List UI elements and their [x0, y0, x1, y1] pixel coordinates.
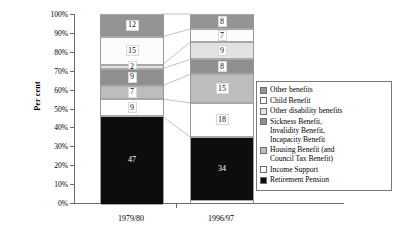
bar-segment[interactable]: 9	[191, 42, 253, 59]
y-axis-tick-label: 30%	[30, 142, 68, 151]
y-axis-tick-label: 10%	[30, 180, 68, 189]
legend-item[interactable]: Housing Benefit (and Council Tax Benefit…	[260, 145, 388, 163]
bar-segment-value: 9	[218, 45, 227, 56]
bar-segment[interactable]: 47	[101, 116, 163, 205]
y-axis-tick-label: 50%	[30, 104, 68, 113]
legend-swatch-icon	[260, 87, 267, 94]
y-axis-tick-label: 70%	[30, 66, 68, 75]
bar-segment-value: 9	[128, 72, 137, 83]
bar-segment[interactable]: 15	[191, 74, 253, 102]
legend-swatch-icon	[260, 177, 267, 184]
y-axis-tick-label: 80%	[30, 47, 68, 56]
y-axis-tick	[70, 165, 74, 166]
y-axis-tick-label: 60%	[30, 85, 68, 94]
bar-segment[interactable]: 8	[191, 14, 253, 29]
stacked-bar-chart: Per cent 0%10%20%30%40%50%60%70%80%90%10…	[0, 0, 398, 251]
bar-segment-value: 7	[128, 87, 137, 98]
leader-line	[162, 59, 190, 68]
leader-line	[162, 74, 190, 85]
legend-item-label: Other benefits	[270, 85, 313, 94]
bar-segment[interactable]: 7	[191, 29, 253, 42]
legend-item[interactable]: Income Support	[260, 165, 388, 174]
x-axis-category-label: 1979/80	[86, 214, 176, 223]
y-axis-tick	[70, 146, 74, 147]
y-axis-tick	[70, 14, 74, 15]
legend-item[interactable]: Other disability benefits	[260, 106, 388, 115]
legend-item-label: Retirement Pension	[270, 175, 329, 184]
legend-item-label: Housing Benefit (and Council Tax Benefit…	[270, 145, 335, 163]
bar-segment-value: 9	[128, 102, 137, 113]
bar-segment-value: 18	[216, 114, 229, 125]
y-axis-tick	[70, 52, 74, 53]
bar-segment-value: 15	[216, 83, 229, 94]
legend-item-label: Sickness Benefit, Invalidity Benefit, In…	[270, 117, 325, 144]
bar-segment-value: 8	[218, 16, 227, 27]
legend-item-label: Other disability benefits	[270, 106, 342, 115]
legend-swatch-icon	[260, 97, 267, 104]
leader-line	[162, 42, 190, 65]
bar-segment[interactable]: 9	[101, 69, 163, 86]
y-axis-tick	[70, 33, 74, 34]
y-axis-tick	[70, 71, 74, 72]
bar-segment[interactable]: 34	[191, 137, 253, 201]
y-axis-tick-labels: 0%10%20%30%40%50%60%70%80%90%100%	[30, 14, 68, 203]
chart-legend: Other benefitsChild BenefitOther disabil…	[256, 81, 392, 191]
x-axis-tick	[176, 204, 177, 208]
bar-segment-value: 7	[218, 30, 227, 41]
y-axis-tick-label: 40%	[30, 123, 68, 132]
bar-segment-value: 47	[127, 156, 138, 165]
legend-swatch-icon	[260, 118, 267, 125]
bar-1996-97[interactable]: 8798151834	[190, 14, 254, 203]
legend-swatch-icon	[260, 166, 267, 173]
y-axis-tick	[70, 109, 74, 110]
y-axis-tick-label: 90%	[30, 28, 68, 37]
legend-item[interactable]: Other benefits	[260, 85, 388, 94]
bar-segment[interactable]: 12	[101, 14, 163, 37]
bar-segment[interactable]: 8	[191, 59, 253, 74]
bar-segment-value: 15	[126, 45, 139, 56]
y-axis-tick	[70, 90, 74, 91]
bar-1979-80[interactable]: 1215297947	[100, 14, 164, 203]
legend-item[interactable]: Child Benefit	[260, 96, 388, 105]
bar-segment[interactable]: 7	[101, 86, 163, 99]
legend-items: Other benefitsChild BenefitOther disabil…	[260, 85, 388, 184]
legend-swatch-icon	[260, 147, 267, 154]
y-axis-tick-label: 0%	[30, 199, 68, 208]
bar-segment-value: 8	[218, 61, 227, 72]
leader-line	[162, 99, 190, 103]
legend-item-label: Child Benefit	[270, 96, 311, 105]
y-axis-tick	[70, 127, 74, 128]
y-axis-tick-label: 20%	[30, 161, 68, 170]
bar-segment[interactable]: 18	[191, 103, 253, 137]
y-axis-tick	[70, 184, 74, 185]
bar-segment[interactable]: 9	[101, 99, 163, 116]
y-axis-line	[74, 14, 75, 204]
y-axis-tick-label: 100%	[30, 10, 68, 19]
leader-line	[162, 116, 190, 137]
legend-item[interactable]: Sickness Benefit, Invalidity Benefit, In…	[260, 117, 388, 144]
legend-item-label: Income Support	[270, 165, 318, 174]
legend-swatch-icon	[260, 108, 267, 115]
bar-segment-value: 34	[217, 164, 228, 173]
legend-item[interactable]: Retirement Pension	[260, 175, 388, 184]
x-axis-category-label: 1996/97	[176, 214, 266, 223]
bar-segment-value: 12	[126, 20, 139, 31]
leader-line	[162, 29, 190, 37]
y-axis-tick	[70, 203, 74, 204]
